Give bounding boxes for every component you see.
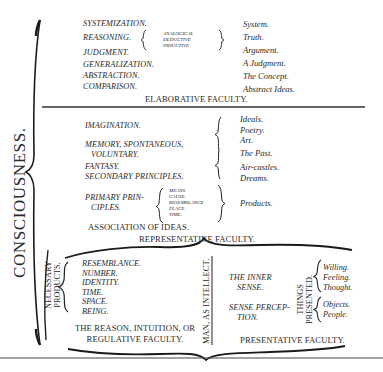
elaborative-label: ELABORATIVE FACULTY. [145, 94, 248, 104]
things-presented-label: THINGS PRESENTED. [296, 275, 314, 324]
fantasy: FANTASY. SECONDARY PRINCIPLES. [85, 162, 184, 183]
elaborative-faculties: SYSTEMIZATION. REASONING. JUDGMENT. GENE… [83, 18, 154, 92]
outer-things: Objects. People. [323, 300, 350, 320]
man-as-intellect-label: MAN, AS INTELLECT. [202, 259, 211, 345]
imagination: IMAGINATION. [85, 121, 141, 131]
presentative-label: PRESENTATIVE FACULTY. [240, 335, 345, 345]
consciousness-title: CONSCIOUSNESS. [10, 127, 30, 278]
inner-things: Willing. Feeling. Thought. [323, 263, 353, 293]
faculty-judgment: JUDGMENT. [83, 47, 154, 58]
inner-sense: THE INNER SENSE. [229, 273, 272, 294]
faculty-comparison: COMPARISON. [83, 81, 154, 92]
sense-perception: SENSE PERCEP- TION. [229, 303, 290, 324]
products: Products. [240, 198, 273, 208]
necessary-products: RESEMBLANCE. NUMBER. IDENTITY. TIME. SPA… [82, 259, 141, 317]
primary-principles: PRIMARY PRIN- CIPLES. [85, 193, 144, 214]
association-of-ideas: ASSOCIATION OF IDEAS. [88, 222, 189, 232]
regulative-label: THE REASON, INTUITION, OR REGULATIVE FAC… [70, 323, 200, 345]
necessary-products-label: NECESSARY PRODUCTS. [44, 261, 62, 309]
memory: MEMORY, SPONTANEOUS, VOLUNTARY. [85, 140, 183, 161]
faculty-reasoning: REASONING. [83, 32, 154, 43]
representative-label: REPRESENTATIVE FACULTY. [139, 234, 255, 244]
reasoning-kinds: ANALOGICAL DEDUCTIVE INDUCTIVE [163, 31, 193, 49]
representative-results: Ideals. Poetry. Art. The Past. Air-castl… [240, 114, 279, 184]
elaborative-results: System. Truth. Argument. A Judgment. The… [243, 18, 295, 96]
faculty-systemization: SYSTEMIZATION. [83, 18, 154, 29]
faculty-generalization: GENERALIZATION. [83, 59, 154, 70]
primary-kinds: MEANS. CAUSE. RESEMBLANCE PLACE. TIME. [169, 188, 203, 218]
faculty-abstraction: ABSTRACTION. [83, 70, 154, 81]
